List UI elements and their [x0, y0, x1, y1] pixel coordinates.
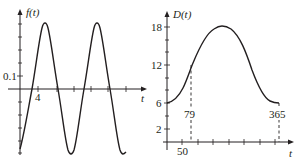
right-mark-365: 365: [269, 108, 286, 120]
left-x-arrow-icon: [141, 87, 147, 92]
right-y-tick-2: 2: [156, 123, 162, 135]
left-x-tick-label: 4: [35, 91, 41, 103]
right-x-tick-50: 50: [177, 145, 189, 157]
right-x-arrow-icon: [288, 140, 294, 145]
right-y-tick-12: 12: [151, 59, 162, 71]
right-y-label: D(t): [172, 8, 192, 21]
right-mark-79: 79: [184, 108, 196, 120]
left-y-arrow-icon: [18, 9, 23, 15]
left-x-label: t: [141, 92, 145, 104]
right-y-tick-18: 18: [151, 21, 163, 33]
left-chart: [8, 9, 147, 155]
figure: f(t) t 0.1 4: [0, 0, 297, 160]
right-x-label: t: [289, 147, 293, 159]
left-y-label: f(t): [26, 6, 40, 19]
right-y-tick-6: 6: [156, 97, 162, 109]
right-curve: [167, 26, 279, 103]
left-y-tick-label: 0.1: [3, 70, 17, 82]
right-y-arrow-icon: [165, 11, 170, 17]
right-chart: [163, 11, 294, 150]
